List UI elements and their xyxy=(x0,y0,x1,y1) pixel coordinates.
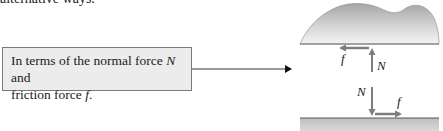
lower-friction-label: f xyxy=(397,94,403,109)
upper-friction-label: f xyxy=(341,51,347,66)
ground-surface xyxy=(300,118,439,131)
lower-normal-label: N xyxy=(356,84,367,99)
upper-body-blob xyxy=(300,3,439,44)
force-diagram: f N N f xyxy=(0,0,443,131)
upper-normal-label: N xyxy=(376,58,387,73)
